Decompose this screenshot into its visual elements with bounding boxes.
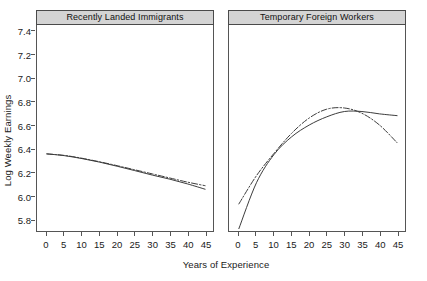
y-tick-mark [31,101,35,102]
x-axis-label: Years of Experience [36,259,416,270]
x-tick-label: 15 [94,239,105,250]
series-line-solid [239,111,397,229]
plot-area-recently-landed-immigrants [36,25,214,232]
x-tick-mark [152,232,153,236]
plot-lines-recently-landed-immigrants [37,25,213,231]
x-tick-label: 45 [201,239,212,250]
x-tick-mark [362,232,363,236]
x-tick-mark [99,232,100,236]
y-tick-mark [31,30,35,31]
y-tick-mark [31,220,35,221]
y-axis-tick-labels: 5.86.06.26.46.66.87.07.27.4 [0,0,31,281]
x-tick-label: 35 [165,239,176,250]
x-tick-mark [273,232,274,236]
chart-figure: Log Weekly Earnings 5.86.06.26.46.66.87.… [0,0,427,281]
y-tick-mark [31,149,35,150]
x-tick-mark [134,232,135,236]
x-tick-label: 30 [339,239,350,250]
panel-temporary-foreign-workers: Temporary Foreign Workers [228,10,406,232]
x-tick-label: 45 [393,239,404,250]
y-tick-label: 6.2 [5,167,31,178]
y-tick-label: 7.4 [5,25,31,36]
y-tick-mark [31,125,35,126]
y-tick-mark [31,196,35,197]
x-tick-label: 10 [268,239,279,250]
y-tick-label: 6.8 [5,96,31,107]
y-tick-label: 6.6 [5,120,31,131]
y-tick-label: 5.8 [5,215,31,226]
x-tick-label: 35 [357,239,368,250]
x-tick-mark [206,232,207,236]
x-tick-mark [188,232,189,236]
y-tick-label: 7.2 [5,49,31,60]
x-tick-label: 30 [147,239,158,250]
x-tick-mark [398,232,399,236]
plot-area-temporary-foreign-workers [228,25,406,232]
y-tick-mark [31,172,35,173]
x-tick-mark [170,232,171,236]
x-tick-mark [380,232,381,236]
x-tick-mark [291,232,292,236]
x-tick-label: 25 [322,239,333,250]
x-tick-label: 20 [304,239,315,250]
x-tick-mark [326,232,327,236]
x-tick-label: 0 [43,239,48,250]
x-tick-label: 15 [286,239,297,250]
y-tick-label: 6.4 [5,144,31,155]
y-tick-mark [31,54,35,55]
x-tick-label: 20 [112,239,123,250]
x-tick-mark [344,232,345,236]
series-line-solid [47,154,205,189]
y-tick-label: 7.0 [5,73,31,84]
x-tick-label: 10 [76,239,87,250]
y-tick-mark [31,78,35,79]
panel-title-temporary-foreign-workers: Temporary Foreign Workers [228,10,406,25]
x-tick-mark [63,232,64,236]
x-tick-mark [309,232,310,236]
x-tick-label: 40 [183,239,194,250]
x-tick-label: 5 [61,239,66,250]
panel-title-recently-landed-immigrants: Recently Landed Immigrants [36,10,214,25]
x-tick-label: 5 [253,239,258,250]
x-tick-mark [255,232,256,236]
x-tick-mark [238,232,239,236]
panel-recently-landed-immigrants: Recently Landed Immigrants [36,10,214,232]
series-line-dash-dot [239,108,397,204]
plot-lines-temporary-foreign-workers [229,25,405,231]
x-tick-mark [46,232,47,236]
x-tick-mark [81,232,82,236]
x-tick-label: 40 [375,239,386,250]
series-line-dash-dot [47,154,205,186]
x-tick-label: 25 [130,239,141,250]
x-tick-label: 0 [235,239,240,250]
y-tick-label: 6.0 [5,191,31,202]
x-tick-mark [117,232,118,236]
